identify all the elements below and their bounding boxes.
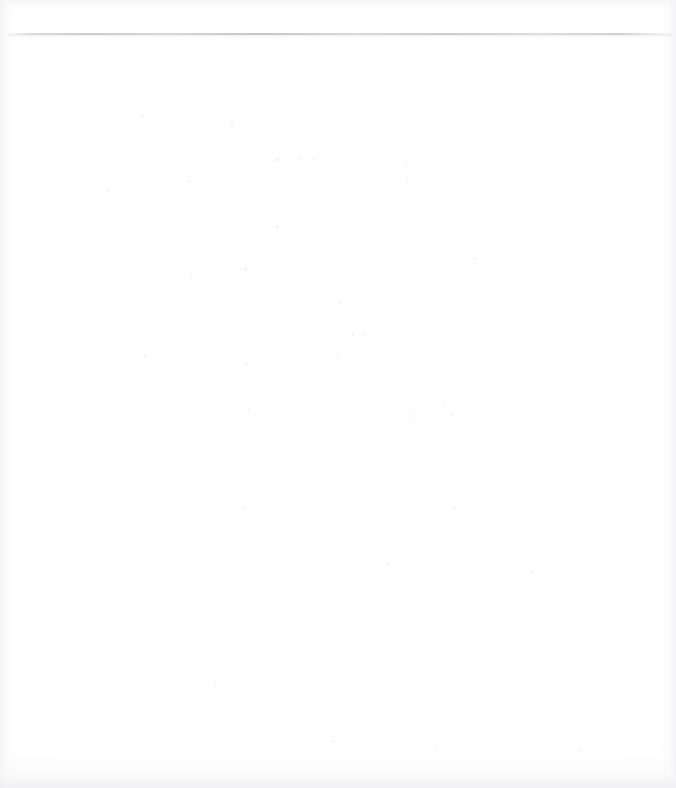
scan-speck: [300, 158, 302, 160]
scan-speck: [107, 190, 109, 192]
scan-speck: [244, 507, 246, 509]
bottom-edge-shadow: [0, 754, 676, 788]
scan-speck: [364, 334, 366, 336]
scan-speck: [409, 415, 411, 417]
scan-speck: [262, 123, 263, 124]
scan-speck: [276, 158, 279, 161]
scan-speck: [444, 401, 446, 403]
scan-speck: [244, 268, 247, 271]
scan-speck: [406, 180, 408, 182]
top-edge-shadow: [0, 0, 676, 14]
scan-speck: [474, 258, 476, 260]
scan-speck: [214, 682, 216, 684]
scan-speck: [531, 571, 533, 573]
scan-speck: [352, 334, 354, 336]
scan-speck: [245, 363, 247, 365]
empty-content-area: [14, 42, 662, 742]
scan-speck: [339, 301, 341, 303]
scan-speck: [332, 740, 334, 742]
scan-speck: [337, 356, 339, 358]
scan-speck: [405, 164, 407, 166]
scan-speck: [144, 355, 146, 357]
scan-speck: [276, 225, 279, 228]
scan-speck: [451, 414, 453, 416]
scan-speck: [387, 563, 389, 565]
scan-speck: [188, 180, 190, 182]
scanned-page: [0, 0, 676, 788]
scan-speck: [578, 750, 580, 752]
scan-speck: [453, 507, 455, 509]
right-edge-shadow: [660, 0, 676, 788]
scan-speck: [231, 124, 233, 126]
top-horizontal-rule-bleed: [8, 35, 672, 38]
scan-speck: [190, 276, 192, 278]
scan-speck: [313, 158, 315, 160]
left-edge-shadow: [0, 0, 14, 788]
scan-speck: [248, 409, 250, 411]
scan-speck: [141, 115, 143, 117]
scan-speck: [436, 745, 438, 747]
